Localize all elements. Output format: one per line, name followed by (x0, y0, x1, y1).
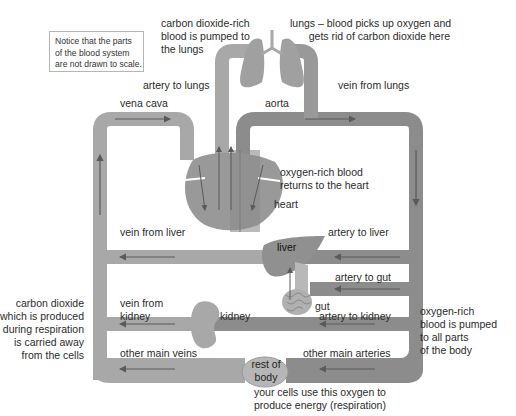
label-line: returns to the heart (280, 179, 369, 192)
label-artery-to-kidney: artery to kidney (319, 310, 391, 323)
label-line: blood is pumped to (161, 30, 250, 43)
label-line: which is produced (0, 310, 84, 323)
label-heart: heart (274, 198, 298, 211)
note-line: Notice that the parts (55, 36, 138, 48)
note-line: of the blood system (55, 48, 138, 60)
label-artery-to-gut: artery to gut (335, 271, 391, 284)
label-co2-pumped-to-lungs: carbon dioxide-rich blood is pumped to t… (161, 17, 250, 56)
label-artery-to-lungs: artery to lungs (143, 79, 210, 92)
label-line: kidney (120, 310, 163, 323)
label-co2-carried-away: carbon dioxide which is produced during … (0, 297, 84, 362)
label-other-main-arteries: other main arteries (303, 347, 391, 360)
label-line: to all parts (420, 331, 497, 344)
label-line: carbon dioxide (0, 297, 84, 310)
label-line: gets rid of carbon dioxide here (290, 30, 450, 43)
label-line: vein from (120, 297, 163, 310)
label-kidney: kidney (220, 310, 250, 323)
label-line: the lungs (161, 43, 250, 56)
label-oxygen-returns-to-heart: oxygen-rich blood returns to the heart (280, 166, 369, 192)
label-oxygen-pumped-to-body: oxygen-rich blood is pumped to all parts… (420, 305, 497, 357)
label-line: oxygen-rich blood (280, 166, 369, 179)
label-vein-from-kidney: vein from kidney (120, 297, 163, 323)
label-artery-to-liver: artery to liver (328, 226, 389, 239)
label-line: from the cells (0, 349, 84, 362)
label-line: of the body (420, 344, 497, 357)
label-line: produce energy (respiration) (254, 399, 386, 412)
label-cells-use-oxygen: your cells use this oxygen to produce en… (254, 386, 386, 412)
label-line: lungs – blood picks up oxygen and (290, 17, 450, 30)
label-line: your cells use this oxygen to (254, 386, 386, 399)
label-lungs: lungs – blood picks up oxygen and gets r… (290, 17, 450, 43)
label-line: during respiration (0, 323, 84, 336)
label-line: rest of (249, 358, 283, 371)
label-line: body (249, 371, 283, 384)
label-vein-from-lungs: vein from lungs (338, 79, 409, 92)
label-rest-of-body: rest of body (249, 358, 283, 384)
label-vein-from-liver: vein from liver (120, 226, 185, 239)
label-line: is carried away (0, 336, 84, 349)
label-liver: liver (277, 241, 296, 254)
label-vena-cava: vena cava (120, 97, 168, 110)
label-line: carbon dioxide-rich (161, 17, 250, 30)
note-line: are not drawn to scale. (55, 59, 138, 71)
label-other-main-veins: other main veins (120, 347, 197, 360)
label-line: blood is pumped (420, 318, 497, 331)
scale-note: Notice that the parts of the blood syste… (49, 31, 144, 72)
label-aorta: aorta (265, 97, 289, 110)
heart (185, 147, 283, 232)
label-line: oxygen-rich (420, 305, 497, 318)
